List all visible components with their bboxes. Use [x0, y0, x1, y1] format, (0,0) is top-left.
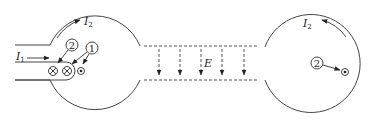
out-of-page-icon: [342, 69, 349, 76]
marker-2: 2: [58, 39, 78, 63]
current-loop-label: I2: [302, 17, 312, 31]
right-chamber-outline: [265, 15, 360, 113]
current-loop-label: I2: [83, 15, 93, 29]
svg-text:1: 1: [89, 43, 95, 54]
current-loop-arrow: [57, 20, 80, 38]
svg-text:2: 2: [69, 40, 75, 51]
current-in-label: I1: [15, 50, 25, 64]
out-of-page-icon: [78, 68, 85, 75]
marker-2: 2: [311, 57, 340, 70]
current-loop-arrow: [322, 20, 346, 37]
left-chamber: I1 I2 2 1: [15, 15, 140, 110]
right-chamber: I2 2: [265, 15, 360, 113]
diagram: I1 I2 2 1: [0, 0, 371, 125]
marker-1: 1: [72, 42, 98, 64]
into-page-icon: [49, 67, 58, 76]
field-region: E: [144, 46, 258, 80]
inner-tube: [15, 62, 75, 80]
svg-text:2: 2: [314, 58, 320, 69]
field-label: E: [203, 57, 212, 70]
into-page-icon: [63, 67, 72, 76]
